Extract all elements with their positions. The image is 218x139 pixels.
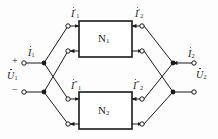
wire-n2-upper-out: [144, 63, 173, 99]
n2-output-current-subscript: 2: [140, 84, 143, 91]
n2-input-current-subscript: 1: [78, 84, 81, 91]
terminal-n2-in-top: [66, 97, 70, 101]
label-input-current: I1: [28, 48, 35, 58]
n2-input-current-symbol: I: [71, 81, 74, 91]
input-voltage-subscript: 1: [14, 74, 17, 81]
block-label-n2: N2: [98, 105, 109, 117]
node-output-top: [171, 61, 176, 66]
n1-input-current-subscript: 1: [76, 12, 79, 19]
terminal-n2-out-top: [140, 97, 144, 101]
output-current-subscript: 2: [192, 52, 195, 59]
n1-input-current-symbol: I: [71, 9, 74, 19]
block-n1-subscript: 1: [106, 37, 109, 44]
output-voltage-subscript: 2: [203, 73, 206, 80]
output-current-symbol: I: [188, 49, 191, 59]
output-voltage-symbol: U: [196, 70, 203, 80]
circuit-diagram-figure: N1 N2 I1 U1 + − I2 U2 I′1 I′2 I″1 I″2: [0, 0, 218, 139]
block-n1-letter: N: [98, 32, 106, 44]
n1-output-current-symbol: I: [135, 9, 138, 19]
schematic-drawing: [0, 0, 218, 139]
input-current-subscript: 1: [32, 51, 35, 58]
terminal-output-negative: [192, 90, 196, 94]
input-voltage-symbol: U: [7, 71, 14, 81]
block-n2-letter: N: [98, 104, 106, 116]
wire-n2-upper-in: [44, 63, 68, 99]
label-n2-output-current: I″2: [133, 80, 143, 91]
terminal-input-positive: [22, 61, 26, 65]
block-label-n1: N1: [98, 33, 109, 45]
node-input-bottom: [42, 90, 47, 95]
terminal-n2-in-bottom: [66, 122, 70, 126]
wire-n2-lower-in: [44, 92, 68, 124]
terminal-input-negative: [22, 90, 26, 94]
label-input-voltage: U1: [7, 71, 18, 81]
label-output-current: I2: [188, 49, 195, 59]
terminal-output-positive: [192, 61, 196, 65]
label-n1-input-current: I′1: [71, 8, 79, 19]
label-n2-input-current: I″1: [71, 80, 81, 91]
block-n2-subscript: 2: [106, 109, 109, 116]
label-output-voltage: U2: [196, 70, 207, 80]
n1-output-current-subscript: 2: [140, 12, 143, 19]
wire-n2-lower-out: [144, 92, 173, 124]
n2-output-current-symbol: I: [133, 81, 136, 91]
polarity-plus-sign: +: [12, 56, 18, 66]
polarity-minus-sign: −: [12, 85, 18, 95]
terminal-n1-in-top: [66, 24, 70, 28]
node-input-top: [42, 61, 47, 66]
terminal-n2-out-bottom: [140, 122, 144, 126]
node-output-bottom: [171, 90, 176, 95]
terminal-n1-out-bottom: [140, 49, 144, 53]
terminal-n1-in-bottom: [66, 49, 70, 53]
input-current-symbol: I: [28, 48, 31, 58]
label-n1-output-current: I′2: [135, 8, 143, 19]
terminal-n1-out-top: [140, 24, 144, 28]
